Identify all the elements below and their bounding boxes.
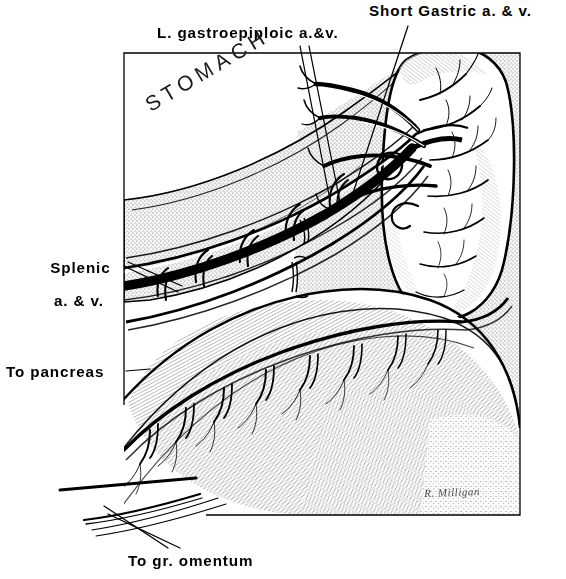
label-splenic-vessels: Splenic a. & v. [40, 244, 111, 326]
artist-signature: R. Milligan [424, 485, 480, 499]
label-to-pancreas: To pancreas [6, 364, 104, 380]
label-splenic-line1: Splenic [50, 259, 110, 276]
label-short-gastric-vessels: Short Gastric a. & v. [369, 3, 532, 19]
spleen [382, 47, 514, 320]
label-splenic-line2: a. & v. [54, 293, 111, 309]
anatomical-figure: Short Gastric a. & v. L. gastroepiploic … [0, 0, 566, 579]
label-to-greater-omentum: To gr. omentum [128, 553, 253, 569]
